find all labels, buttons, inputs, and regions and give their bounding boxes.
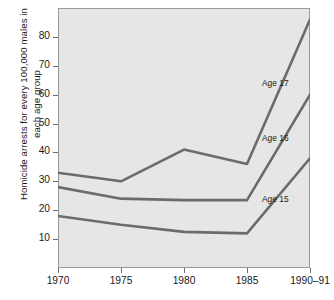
series-annotation: Age 16 — [262, 133, 289, 143]
y-tick-label: 10 — [20, 232, 50, 243]
series-annotation: Age 15 — [262, 194, 289, 204]
x-tick-mark — [121, 268, 122, 273]
x-tick-mark — [310, 268, 311, 273]
y-tick-mark — [53, 124, 58, 125]
y-tick-label: 70 — [20, 59, 50, 70]
y-tick-mark — [53, 95, 58, 96]
y-tick-mark — [53, 152, 58, 153]
line-age-16 — [58, 95, 310, 200]
y-tick-mark — [53, 66, 58, 67]
y-tick-mark — [53, 181, 58, 182]
y-tick-mark — [53, 239, 58, 240]
y-tick-label: 60 — [20, 88, 50, 99]
x-tick-label: 1980 — [154, 275, 214, 286]
x-tick-mark — [58, 268, 59, 273]
x-tick-label: 1990–91 — [280, 275, 334, 286]
x-tick-label: 1975 — [91, 275, 151, 286]
x-tick-label: 1970 — [28, 275, 88, 286]
y-tick-label: 50 — [20, 117, 50, 128]
x-tick-mark — [184, 268, 185, 273]
series-annotation: Age 17 — [262, 78, 289, 88]
y-tick-label: 30 — [20, 174, 50, 185]
y-tick-mark — [53, 37, 58, 38]
x-tick-label: 1985 — [217, 275, 277, 286]
y-tick-label: 80 — [20, 30, 50, 41]
y-tick-mark — [53, 210, 58, 211]
y-tick-label: 40 — [20, 145, 50, 156]
y-tick-label: 20 — [20, 203, 50, 214]
x-tick-mark — [247, 268, 248, 273]
